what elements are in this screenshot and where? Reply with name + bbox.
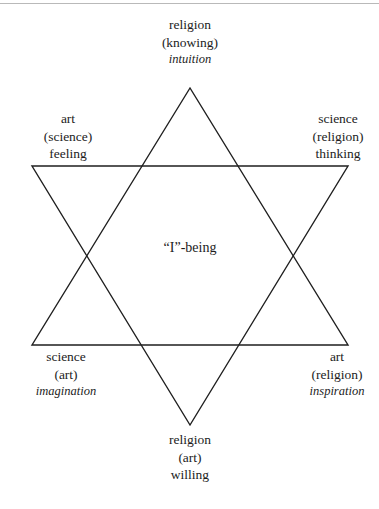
center-label-i-being: “I”-being bbox=[164, 240, 217, 256]
vertex-label-upper-right-faculty: thinking bbox=[313, 145, 364, 163]
vertex-label-bottom-role: religion bbox=[169, 431, 211, 449]
vertex-label-lower-left-role: science bbox=[36, 348, 96, 366]
vertex-label-upper-left-paren: (science) bbox=[44, 128, 93, 146]
vertex-label-upper-right: science (religion) thinking bbox=[313, 110, 364, 163]
vertex-label-upper-left-faculty: feeling bbox=[44, 145, 93, 163]
vertex-label-lower-left-paren: (art) bbox=[36, 366, 96, 384]
vertex-label-top-faculty: intuition bbox=[162, 51, 218, 67]
vertex-label-bottom-paren: (art) bbox=[169, 449, 211, 467]
vertex-label-bottom-faculty: willing bbox=[169, 466, 211, 484]
vertex-label-upper-right-paren: (religion) bbox=[313, 128, 364, 146]
vertex-label-upper-left-role: art bbox=[44, 110, 93, 128]
vertex-label-bottom: religion (art) willing bbox=[169, 431, 211, 484]
vertex-label-upper-left: art (science) feeling bbox=[44, 110, 93, 163]
diagram-page: religion (knowing) intuition art (scienc… bbox=[0, 0, 379, 509]
vertex-label-lower-left: science (art) imagination bbox=[36, 348, 96, 399]
vertex-label-lower-right-role: art bbox=[310, 348, 365, 366]
vertex-label-top-paren: (knowing) bbox=[162, 34, 218, 52]
vertex-label-lower-right: art (religion) inspiration bbox=[310, 348, 365, 399]
vertex-label-top: religion (knowing) intuition bbox=[162, 16, 218, 67]
vertex-label-lower-right-paren: (religion) bbox=[310, 366, 365, 384]
vertex-label-lower-right-faculty: inspiration bbox=[310, 383, 365, 399]
vertex-label-top-role: religion bbox=[162, 16, 218, 34]
vertex-label-lower-left-faculty: imagination bbox=[36, 383, 96, 399]
vertex-label-upper-right-role: science bbox=[313, 110, 364, 128]
